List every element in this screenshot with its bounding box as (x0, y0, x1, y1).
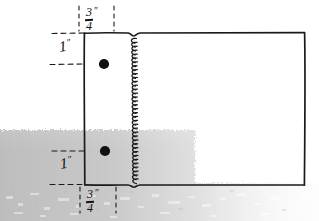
fraction-bar (86, 201, 94, 203)
fraction-bar (85, 19, 93, 21)
top-width-numerator: 3 (85, 7, 93, 18)
upper-hole-icon (99, 59, 109, 69)
bottom-width-inch-mark: ″ (95, 188, 99, 198)
upper-height-annotation: 1″ (58, 38, 73, 55)
scan-shadow-region (0, 120, 319, 221)
top-width-fraction: 3 4 (85, 7, 93, 32)
bottom-width-fraction: 3 4 (86, 189, 94, 214)
top-width-denominator: 4 (85, 21, 93, 32)
bottom-width-annotation: 3 4 ″ (86, 189, 99, 214)
top-width-annotation: 3 4 ″ (85, 7, 98, 32)
bottom-width-numerator: 3 (86, 189, 94, 200)
bottom-width-denominator: 4 (86, 203, 94, 214)
lower-hole-icon (100, 146, 110, 156)
shadow-speckle-texture (0, 186, 319, 221)
sketch-canvas: 3 4 ″ 1″ 1″ 3 4 ″ (0, 0, 319, 221)
hand-drawn-sketch (0, 0, 319, 221)
top-width-inch-mark: ″ (94, 6, 98, 16)
lower-height-annotation: 1″ (59, 155, 74, 172)
